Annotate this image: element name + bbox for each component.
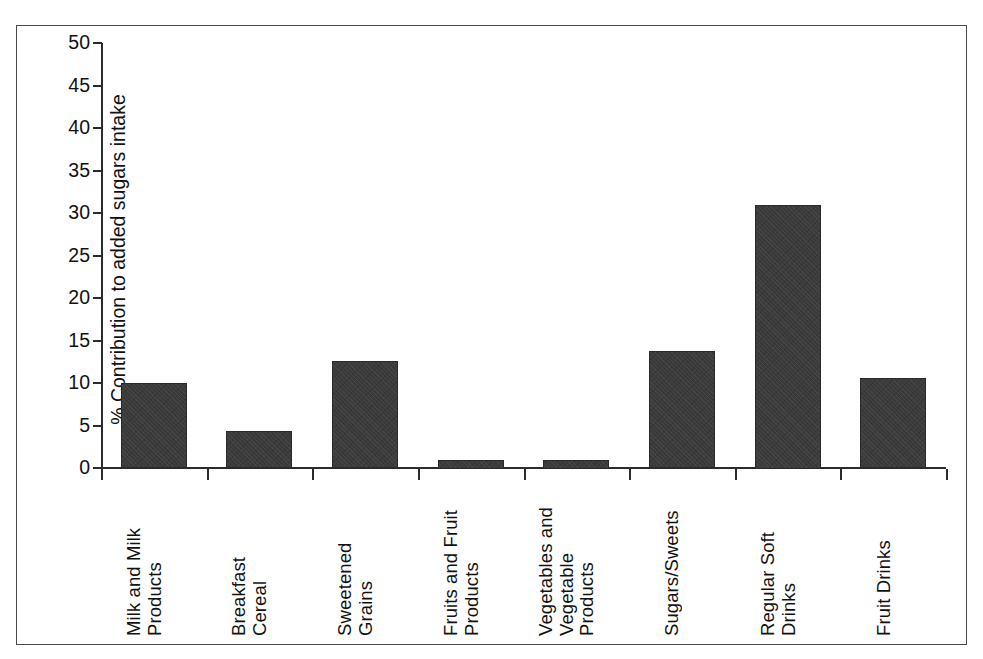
y-axis-tick-5	[93, 425, 102, 427]
x-axis-tick-4	[524, 469, 526, 480]
bar-6	[755, 205, 821, 469]
bar-1	[226, 431, 292, 468]
bar-2	[332, 361, 398, 468]
x-axis-category-label-2: Sweetened Grains	[335, 486, 379, 636]
bar-chart-plot-area: % Contribution to added sugars intake 05…	[0, 0, 983, 659]
bar-0	[121, 383, 187, 468]
x-axis-category-label-3: Fruits and Fruit Products	[441, 486, 485, 636]
y-axis-tick-25	[93, 255, 102, 257]
y-axis-tick-label-20: 20	[42, 288, 90, 308]
x-axis-tick-1	[207, 469, 209, 480]
y-axis-tick-15	[93, 340, 102, 342]
bar-4	[543, 460, 609, 469]
bar-7	[860, 378, 926, 468]
x-axis-tick-3	[418, 469, 420, 480]
y-axis-tick-label-15: 15	[42, 331, 90, 351]
x-axis-category-label-6: Regular Soft Drinks	[758, 486, 802, 636]
y-axis-tick-label-30: 30	[42, 203, 90, 223]
y-axis-tick-label-40: 40	[42, 118, 90, 138]
y-axis-tick-label-45: 45	[42, 76, 90, 96]
y-axis-tick-label-25: 25	[42, 246, 90, 266]
bar-3	[438, 460, 504, 469]
y-axis-tick-40	[93, 127, 102, 129]
y-axis-tick-label-50: 50	[42, 33, 90, 53]
y-axis-tick-10	[93, 382, 102, 384]
bar-5	[649, 351, 715, 468]
y-axis-tick-30	[93, 212, 102, 214]
x-axis-category-label-7: Fruit Drinks	[874, 486, 896, 636]
x-axis-tick-8	[946, 469, 948, 480]
y-axis-tick-label-5: 5	[42, 416, 90, 436]
y-axis-tick-label-10: 10	[42, 373, 90, 393]
y-axis-tick-45	[93, 85, 102, 87]
x-axis-category-label-1: Breakfast Cereal	[229, 486, 273, 636]
x-axis-category-label-0: Milk and Milk Products	[124, 486, 168, 636]
x-axis-tick-0	[101, 469, 103, 480]
x-axis-category-label-4: Vegetables and Vegetable Products	[536, 486, 602, 636]
x-axis-tick-2	[312, 469, 314, 480]
y-axis-tick-35	[93, 170, 102, 172]
x-axis-tick-6	[735, 469, 737, 480]
y-axis-tick-50	[93, 42, 102, 44]
x-axis-category-label-5: Sugars/Sweets	[662, 486, 684, 636]
y-axis-tick-label-0: 0	[42, 458, 90, 478]
y-axis-tick-label-35: 35	[42, 161, 90, 181]
x-axis-tick-5	[629, 469, 631, 480]
y-axis-tick-20	[93, 297, 102, 299]
x-axis-tick-7	[840, 469, 842, 480]
